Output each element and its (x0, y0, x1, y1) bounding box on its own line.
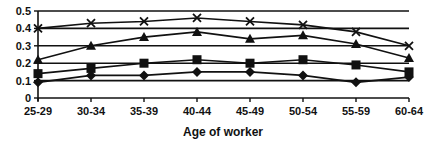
gridlines (38, 11, 409, 98)
diamond-marker (298, 70, 308, 80)
x-tick-label: 60-64 (395, 105, 424, 117)
square-marker (246, 59, 255, 68)
diamond-marker (139, 70, 149, 80)
data-series (33, 14, 414, 87)
square-marker (193, 55, 202, 64)
diamond-marker (351, 77, 361, 87)
diamond-marker (192, 67, 202, 77)
line-chart: 00.10.20.30.40.5 25-2930-3435-3940-4445-… (0, 0, 433, 143)
y-tick-label: 0.1 (16, 75, 31, 87)
diamond-marker (33, 77, 43, 87)
y-axis: 00.10.20.30.40.5 (16, 5, 38, 104)
y-tick-label: 0.5 (16, 5, 31, 17)
y-tick-label: 0 (25, 92, 31, 104)
y-tick-label: 0.2 (16, 57, 31, 69)
x-axis-title: Age of worker (183, 125, 263, 139)
square-marker (140, 59, 149, 68)
square-marker (34, 69, 43, 78)
x-tick-label: 55-59 (342, 105, 370, 117)
y-tick-label: 0.3 (16, 40, 31, 52)
diamond-marker (245, 67, 255, 77)
square-marker (299, 55, 308, 64)
x-tick-label: 25-29 (24, 105, 52, 117)
square-marker (352, 60, 361, 69)
y-tick-label: 0.4 (16, 22, 32, 34)
x-tick-label: 50-54 (289, 105, 318, 117)
x-tick-label: 30-34 (77, 105, 106, 117)
x-tick-label: 35-39 (130, 105, 158, 117)
x-tick-label: 45-49 (236, 105, 264, 117)
x-axis: 25-2930-3435-3940-4445-4950-5455-5960-64 (24, 98, 424, 117)
x-tick-label: 40-44 (183, 105, 212, 117)
